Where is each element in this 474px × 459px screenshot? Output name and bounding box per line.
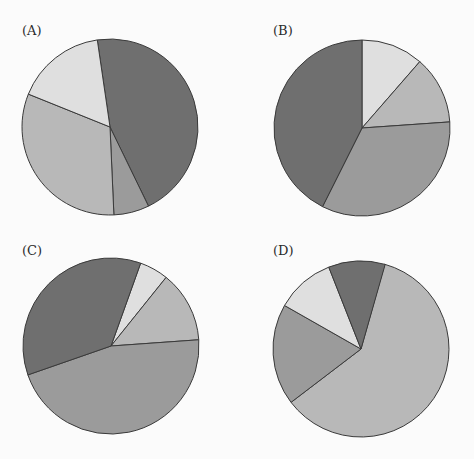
pie-chart-d	[273, 261, 449, 437]
pie-chart-a	[22, 39, 198, 215]
pie-chart-b	[274, 40, 450, 216]
pie-chart-c	[23, 258, 199, 434]
pie-charts	[0, 0, 474, 459]
